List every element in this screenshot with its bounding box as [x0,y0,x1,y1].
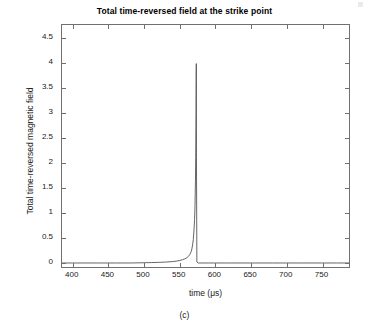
x-axis-label: time (μs) [61,288,350,298]
figure-caption: (c) [0,310,369,320]
y-tick-mark [62,88,66,89]
x-tick-mark-top [108,25,109,29]
x-tick-mark-top [323,25,324,29]
x-tick-label: 700 [266,270,306,279]
y-tick-mark-right [345,138,349,139]
x-tick-mark [323,263,324,267]
figure-panel: Total time-reversed field at the strike … [0,0,369,334]
y-tick-mark [62,213,66,214]
x-tick-label: 400 [52,270,92,279]
y-tick-mark [62,263,66,264]
y-tick-mark-right [345,88,349,89]
x-tick-mark-top [180,25,181,29]
x-tick-mark [73,263,74,267]
y-tick-mark-right [345,38,349,39]
plot-area [61,24,350,268]
y-tick-mark [62,138,66,139]
page-title: Total time-reversed field at the strike … [0,6,369,16]
x-tick-label: 500 [123,270,163,279]
x-tick-label: 600 [194,270,234,279]
x-tick-label: 450 [87,270,127,279]
x-tick-mark-top [287,25,288,29]
x-tick-mark [251,263,252,267]
y-axis-label: Total time-reversed magnetic field [25,29,35,273]
y-tick-mark-right [345,113,349,114]
x-tick-label: 650 [230,270,270,279]
x-tick-label: 750 [301,270,341,279]
y-tick-mark [62,238,66,239]
x-tick-mark [180,263,181,267]
y-tick-mark-right [345,238,349,239]
y-tick-mark [62,163,66,164]
x-tick-label: 550 [159,270,199,279]
x-tick-mark [108,263,109,267]
x-tick-mark-top [144,25,145,29]
data-series-line [62,64,350,263]
y-tick-mark [62,38,66,39]
y-tick-mark-right [345,188,349,189]
y-tick-mark [62,113,66,114]
y-tick-mark [62,188,66,189]
y-tick-mark-right [345,163,349,164]
x-tick-mark-top [73,25,74,29]
y-tick-mark [62,63,66,64]
x-tick-mark [287,263,288,267]
x-tick-mark [215,263,216,267]
line-chart-canvas [62,25,350,268]
y-tick-mark-right [345,63,349,64]
y-tick-mark-right [345,213,349,214]
x-tick-mark [144,263,145,267]
x-tick-mark-top [251,25,252,29]
y-tick-mark-right [345,263,349,264]
x-tick-mark-top [215,25,216,29]
